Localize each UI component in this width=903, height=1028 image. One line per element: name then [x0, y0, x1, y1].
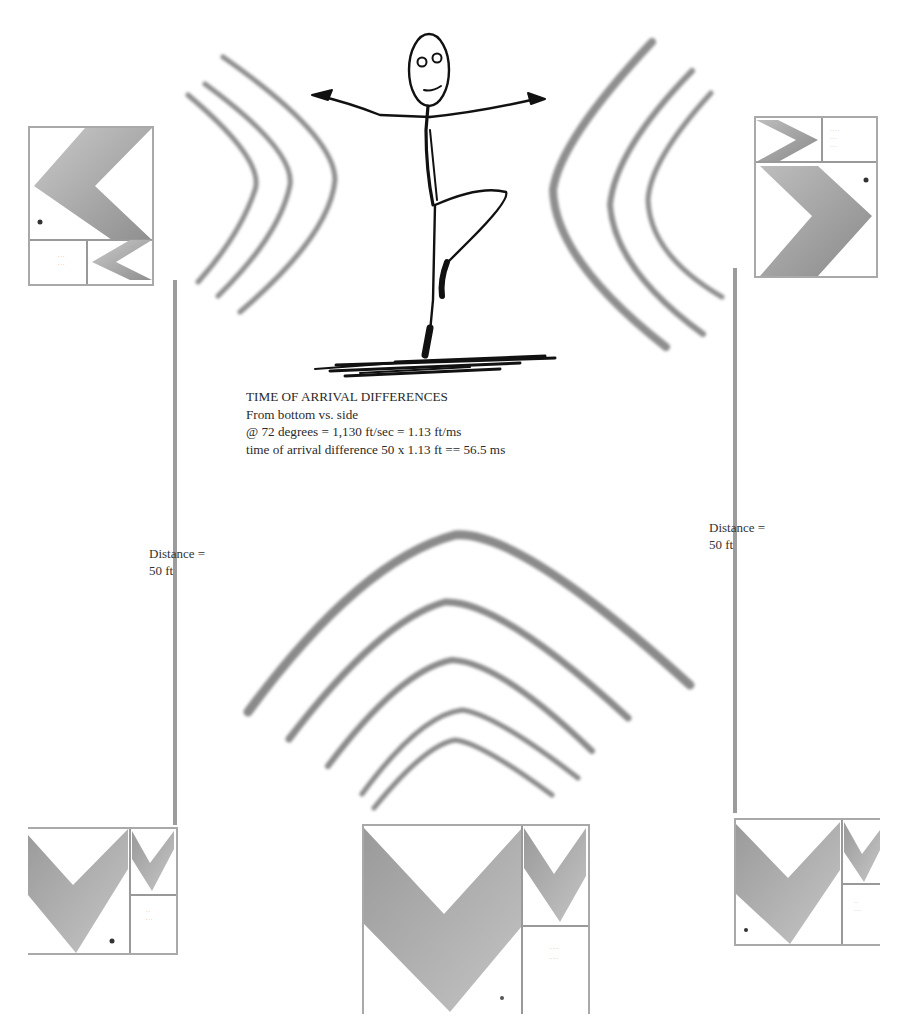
- svg-text:· ·: · ·: [854, 900, 858, 905]
- chevron-down-icon: · · · · ·: [28, 829, 176, 953]
- speaker-top-left: · · · · · ·: [28, 126, 154, 286]
- caption-line-3: time of arrival difference 50 x 1.13 ft …: [246, 441, 505, 459]
- bottom-wave-group: [248, 535, 690, 808]
- svg-text:· · ·: · · ·: [58, 254, 64, 259]
- caption-title: TIME OF ARRIVAL DIFFERENCES: [246, 388, 505, 406]
- svg-text:· · ·: · · ·: [550, 945, 558, 951]
- svg-text:· ·: · ·: [146, 909, 150, 914]
- caption-line-1: From bottom vs. side: [246, 406, 505, 424]
- chevron-down-icon: · · · · · ·: [364, 826, 588, 1014]
- speaker-bottom-right: · · · · ·: [734, 818, 880, 946]
- stick-figure-dancer: [312, 34, 555, 376]
- chevron-left-icon: · · · · · ·: [30, 128, 152, 284]
- left-distance-label-line1: Distance =: [149, 545, 205, 562]
- head: [409, 34, 449, 106]
- svg-text:· · ·: · · ·: [854, 908, 860, 913]
- speaker-top-right: · · · · · · · · · ·: [754, 116, 878, 278]
- chevron-right-icon: · · · · · · · · · ·: [756, 118, 876, 276]
- speaker-bottom-center: · · · · · ·: [362, 824, 590, 1014]
- time-of-arrival-caption: TIME OF ARRIVAL DIFFERENCES From bottom …: [246, 388, 505, 458]
- svg-text:· · ·: · · ·: [58, 262, 64, 267]
- svg-text:· · · ·: · · · ·: [830, 128, 839, 133]
- right-wave-group: [553, 42, 722, 347]
- left-distance-label-line2: 50 ft: [149, 562, 205, 579]
- speaker-bottom-left: · · · · ·: [28, 827, 178, 955]
- right-distance-label-line2: 50 ft: [709, 536, 765, 553]
- right-distance-label-line1: Distance =: [709, 519, 765, 536]
- svg-text:· · ·: · · ·: [146, 917, 152, 922]
- svg-text:· · ·: · · ·: [830, 144, 836, 149]
- svg-text:· · ·: · · ·: [550, 955, 558, 961]
- chevron-down-icon: · · · · ·: [736, 820, 880, 944]
- left-distance-label: Distance = 50 ft: [149, 545, 205, 579]
- right-distance-label: Distance = 50 ft: [709, 519, 765, 553]
- svg-text:· · ·: · · ·: [830, 136, 836, 141]
- caption-line-2: @ 72 degrees = 1,130 ft/sec = 1.13 ft/ms: [246, 423, 505, 441]
